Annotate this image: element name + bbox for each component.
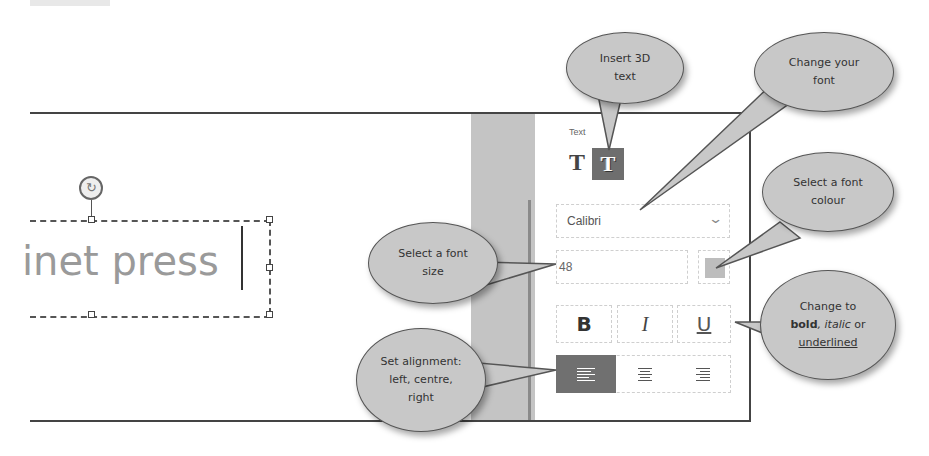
callout-text: Select a font [793,174,863,192]
callout-text-italic: italic [825,318,851,331]
callout-font-colour: Select a fontcolour [762,152,894,232]
callout-alignment: Set alignment:left, centre,right [356,328,486,432]
callout-text: Set alignment: [381,353,462,371]
callout-text: right [381,389,462,407]
callout-change-font: Change yourfont [754,32,894,112]
callout-text-bold: bold [790,318,817,331]
callout-text: Change to [790,298,865,316]
callout-text-style: Change to bold, italic or underlined [760,270,896,380]
callout-insert-3d-text: Insert 3Dtext [566,32,684,104]
callout-text: text [600,68,651,86]
callout-font-size: Select a fontsize [368,222,498,304]
callout-text: Select a font [398,245,468,263]
callout-text: Change your [789,54,859,72]
callout-text: colour [793,192,863,210]
callout-text-underlined: underlined [790,334,865,352]
callout-text: font [789,72,859,90]
callout-text-or: or [851,318,866,331]
callout-text: left, centre, [381,371,462,389]
callout-text-sep: , [818,318,825,331]
callout-text: Insert 3D [600,50,651,68]
callout-text: size [398,263,468,281]
